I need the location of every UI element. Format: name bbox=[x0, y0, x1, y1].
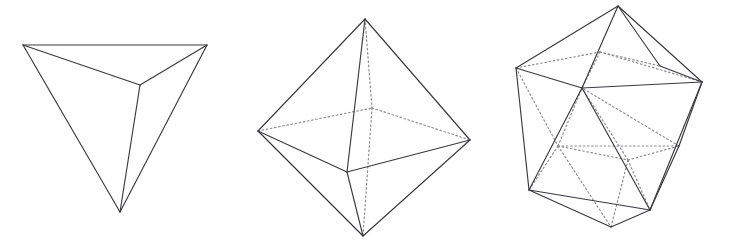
polyhedra-figure bbox=[0, 0, 733, 250]
figure-canvas bbox=[0, 0, 733, 250]
